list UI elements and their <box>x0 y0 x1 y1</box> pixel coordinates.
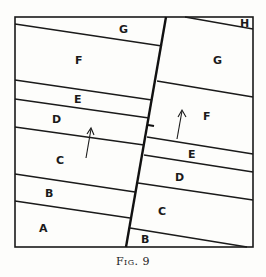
fault-tick <box>148 125 154 126</box>
arrow-up-right-icon <box>177 110 186 139</box>
label-left-E: E <box>74 93 82 106</box>
label-right-C: C <box>158 205 166 218</box>
label-right-G: G <box>213 54 222 67</box>
label-left-D: D <box>52 113 61 126</box>
label-left-F: F <box>75 54 83 67</box>
label-left-B: B <box>45 187 53 200</box>
fault-diagram: G F E D C B A H G F E D C B <box>0 0 266 277</box>
left-bedding-lines <box>15 24 162 218</box>
right-bedding-lines <box>130 17 253 247</box>
arrow-up-left-icon <box>86 128 94 158</box>
label-left-C: C <box>56 154 64 167</box>
label-left-A: A <box>39 222 48 235</box>
label-right-E: E <box>188 148 196 161</box>
label-left-G: G <box>119 23 128 36</box>
label-right-D: D <box>175 171 184 184</box>
label-right-H: H <box>240 17 249 30</box>
figure-caption: Fig. 9 <box>0 255 266 268</box>
label-right-F: F <box>203 110 211 123</box>
label-right-B: B <box>141 233 149 246</box>
